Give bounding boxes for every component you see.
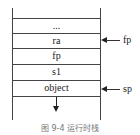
stack-cell-fp: fp [12, 48, 101, 63]
fp-pointer-label: fp [123, 34, 131, 46]
sp-pointer-label: sp [123, 83, 132, 95]
arrow-down-icon [53, 106, 59, 112]
stack-cell-object: object [12, 80, 101, 95]
figure-caption: 图 9-4 运行时栈 [0, 122, 140, 133]
sp-pointer-line [106, 89, 120, 90]
stack-cell-ellipsis: ... [12, 18, 101, 33]
stack-cell-s1: s1 [12, 64, 101, 79]
growth-arrow-line [56, 97, 57, 106]
stack-cell-ra: ra [12, 33, 101, 48]
fp-pointer-line [106, 40, 120, 41]
